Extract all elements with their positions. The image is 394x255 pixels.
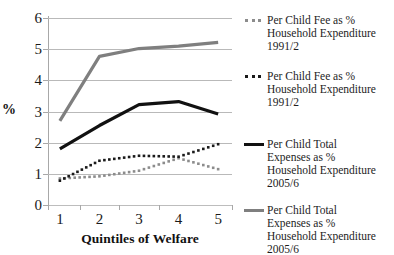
legend-label: Per Child Fee as % Household Expenditure… (267, 70, 391, 109)
x-axis-tick-label: 5 (214, 212, 222, 227)
x-axis-tick-label: 4 (175, 212, 183, 227)
legend-label: Per Child Fee as % Household Expenditure… (267, 14, 391, 53)
legend-marker-solid-line-black-icon (243, 138, 265, 151)
y-axis-tick-label: 6 (35, 11, 43, 26)
y-axis-title: % (2, 102, 16, 118)
x-axis-tick-labels: 12345 (48, 212, 232, 230)
y-axis-tick-label: 5 (35, 42, 43, 57)
series-layer (48, 18, 232, 205)
y-axis-tick-label: 0 (35, 198, 43, 213)
legend-entry[interactable]: Per Child Total Expenses as % Household … (243, 204, 391, 255)
legend-label: Per Child Total Expenses as % Household … (267, 138, 391, 190)
legend-marker-dotted-line-gray-icon (243, 14, 265, 27)
y-axis-tick-labels: 0123456 (20, 0, 42, 255)
legend-marker-solid-line-gray-icon (243, 204, 265, 217)
series-dotted-line (59, 143, 220, 182)
y-axis-tick-label: 4 (35, 73, 43, 88)
series-line (60, 42, 218, 121)
x-axis-tick (159, 205, 160, 210)
legend-marker-dotted-line-black-icon (243, 70, 265, 83)
x-axis-tick (232, 205, 233, 210)
x-axis-tick-label: 3 (135, 212, 143, 227)
y-axis-tick-label: 1 (35, 166, 43, 181)
series-line (60, 102, 218, 149)
x-axis-tick-label: 2 (96, 212, 104, 227)
x-axis-title: Quintiles of Welfare (48, 231, 232, 247)
chart-legend: Per Child Fee as % Household Expenditure… (243, 14, 391, 250)
y-axis-tick-label: 3 (35, 104, 43, 119)
legend-entry[interactable]: Per Child Fee as % Household Expenditure… (243, 14, 391, 53)
x-axis-tick (119, 205, 120, 210)
legend-label: Per Child Total Expenses as % Household … (267, 204, 391, 255)
x-axis-tick (80, 205, 81, 210)
y-axis-tick-label: 2 (35, 135, 43, 150)
x-axis-tick-label: 1 (56, 212, 64, 227)
plot-area (48, 18, 232, 205)
legend-entry[interactable]: Per Child Fee as % Household Expenditure… (243, 70, 391, 109)
x-axis-tick (48, 205, 49, 210)
chart-figure: % 0123456 12345 Quintiles of Welfare Per… (0, 0, 394, 255)
legend-entry[interactable]: Per Child Total Expenses as % Household … (243, 138, 391, 190)
